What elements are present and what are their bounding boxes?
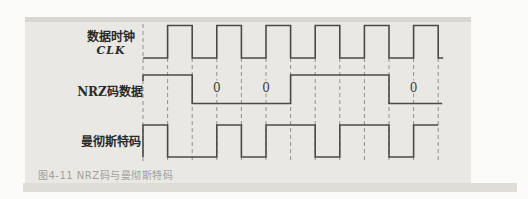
- zero-bit-label: 0: [262, 81, 270, 95]
- manchester-signal-name: 曼彻斯特码: [61, 136, 161, 150]
- clock-signal-label: 数据时钟 CLK: [61, 31, 161, 57]
- clock-signal-name: 数据时钟: [61, 31, 161, 45]
- clk-waveform: [143, 26, 443, 59]
- zero-bit-label: 0: [213, 81, 221, 95]
- manchester-signal-label: 曼彻斯特码: [61, 136, 161, 150]
- nrz-signal-label: NRZ码数据: [60, 86, 160, 100]
- nrz-signal-name: NRZ码数据: [60, 86, 160, 100]
- zero-bit-label: 0: [410, 81, 418, 95]
- figure-caption: 图4-11 NRZ码与曼彻斯特码: [38, 167, 173, 182]
- clock-signal-sublabel: CLK: [61, 45, 161, 58]
- scanned-page: 000 数据时钟 CLK NRZ码数据 曼彻斯特码 图4-11 NRZ码与曼彻斯…: [0, 0, 528, 199]
- nrz-waveform: [143, 75, 442, 104]
